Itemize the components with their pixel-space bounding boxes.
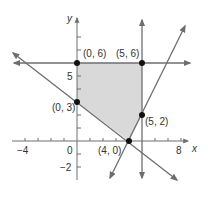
vertex-label-4-0: (4, 0) <box>98 145 121 156</box>
tick-label-5: 5 <box>67 71 73 82</box>
vertex-0-6 <box>74 60 80 66</box>
vertex-label-0-3: (0, 3) <box>52 102 75 113</box>
vertex-5-6 <box>139 60 145 66</box>
x-axis-label: x <box>191 143 198 154</box>
chart: y x −4 0 8 5 −2 (0, 6) (5, 6) (0, 3) (5,… <box>0 0 208 198</box>
tick-label-0: 0 <box>67 145 73 156</box>
vertex-label-5-6: (5, 6) <box>116 48 139 59</box>
vertex-4-0 <box>126 138 132 144</box>
feasible-region <box>77 63 142 141</box>
vertex-label-0-6: (0, 6) <box>83 48 106 59</box>
y-axis-label: y <box>66 13 73 24</box>
x-axis <box>12 138 188 141</box>
tick-label-neg4: −4 <box>17 145 29 156</box>
vertex-label-5-2: (5, 2) <box>145 116 168 127</box>
tick-label-neg2: −2 <box>60 162 72 173</box>
tick-label-8: 8 <box>176 145 182 156</box>
